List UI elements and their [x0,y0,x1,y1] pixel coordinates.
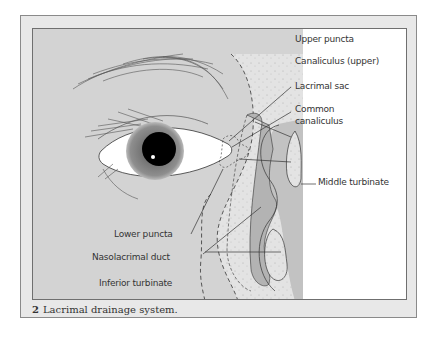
label-common-canaliculus-line2: canaliculus [295,116,343,126]
label-upper-puncta: Upper puncta [295,34,354,44]
figure-caption: 2Lacrimal drainage system. [32,304,178,315]
label-canaliculus-upper: Canaliculus (upper) [295,56,379,66]
label-lower-puncta: Lower puncta [114,229,173,239]
figure-frame: Upper puncta Canaliculus (upper) Lacrima… [20,15,417,318]
label-middle-turbinate: Middle turbinate [318,177,389,187]
label-lacrimal-sac: Lacrimal sac [295,81,349,91]
label-common-canaliculus-line1: Common [295,104,334,114]
illustration-panel: Upper puncta Canaliculus (upper) Lacrima… [32,28,407,300]
lacrimal-illustration [33,29,407,300]
label-nasolacrimal-duct: Nasolacrimal duct [92,252,170,262]
figure-number: 2 [32,304,39,315]
label-inferior-turbinate: Inferior turbinate [99,278,172,288]
figure-caption-text: Lacrimal drainage system. [43,304,178,315]
